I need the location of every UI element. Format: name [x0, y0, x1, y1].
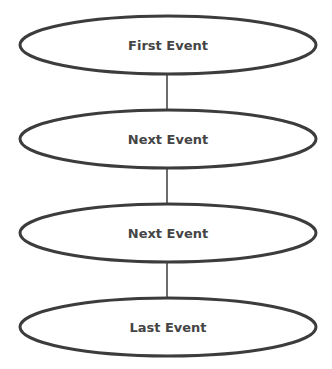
node-label: First Event — [128, 38, 208, 53]
node-label: Last Event — [129, 320, 206, 335]
node-first-event[interactable]: First Event — [20, 16, 316, 74]
node-label: Next Event — [128, 226, 208, 241]
node-label: Next Event — [128, 132, 208, 147]
node-last-event[interactable]: Last Event — [20, 298, 316, 356]
node-next-event-2[interactable]: Next Event — [20, 204, 316, 262]
event-sequence-diagram: First Event Next Event Next Event Last E… — [0, 0, 332, 369]
node-next-event-1[interactable]: Next Event — [20, 110, 316, 168]
